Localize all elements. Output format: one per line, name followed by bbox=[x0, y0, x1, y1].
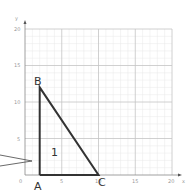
x-tick-15: 15 bbox=[132, 178, 138, 184]
x-axis-label: x bbox=[182, 178, 185, 184]
point-label-c: C bbox=[98, 176, 106, 189]
x-tick-20: 20 bbox=[168, 178, 174, 184]
y-axis-arrow-icon bbox=[24, 20, 27, 24]
x-tick-0: 0 bbox=[19, 178, 22, 184]
y-tick-15: 15 bbox=[14, 62, 20, 68]
y-tick-10: 10 bbox=[14, 99, 20, 105]
y-tick-5: 5 bbox=[17, 136, 20, 142]
y-tick-20: 20 bbox=[14, 26, 20, 32]
pointer-line bbox=[0, 155, 32, 166]
point-label-a: A bbox=[34, 180, 42, 192]
y-axis-label: y bbox=[15, 15, 18, 22]
coordinate-diagram: y x 0 5 10 15 20 5 10 15 20 A B C 1 bbox=[0, 0, 189, 192]
x-axis-arrow-icon bbox=[178, 174, 182, 177]
region-label: 1 bbox=[51, 146, 58, 159]
point-label-b: B bbox=[34, 75, 42, 88]
x-tick-5: 5 bbox=[60, 178, 63, 184]
